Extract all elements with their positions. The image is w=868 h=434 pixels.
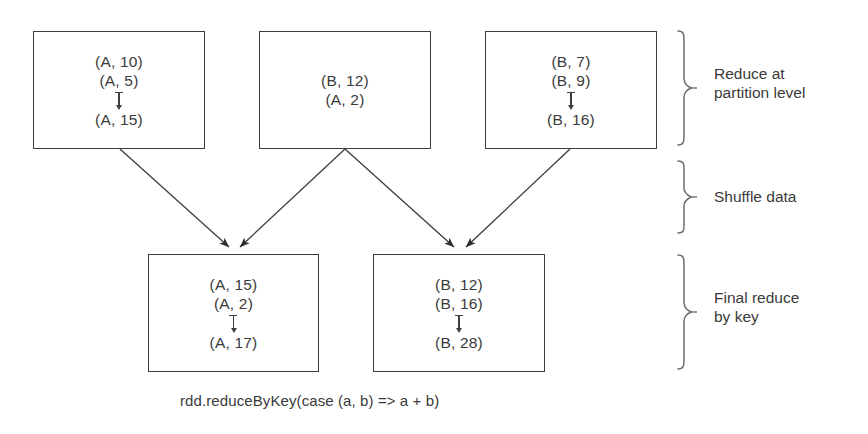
- final-reduce-box-b: (B, 12) (B, 16) (B, 28): [373, 254, 545, 372]
- down-arrow-icon: [458, 316, 459, 329]
- partition-1-line-1: (A, 10): [95, 52, 143, 71]
- diagram-caption: rdd.reduceByKey(case (a, b) => a + b): [180, 392, 439, 410]
- partition-3-line-1: (B, 7): [551, 52, 590, 71]
- edge-partition2-to-final-b: [345, 149, 454, 247]
- final-reduce-box-a: (A, 15) (A, 2) (A, 17): [148, 254, 319, 372]
- edge-partition1-to-final-a: [120, 149, 229, 247]
- curly-brace-icon: [672, 252, 698, 372]
- stage-label-shuffle-data: Shuffle data: [714, 187, 854, 206]
- partition-3-line-2: (B, 9): [551, 71, 590, 90]
- down-arrow-icon: [118, 93, 119, 106]
- partition-1-line-2: (A, 5): [99, 71, 138, 90]
- diagram-canvas: (A, 10) (A, 5) (A, 15) (B, 12) (A, 2) (B…: [0, 0, 868, 434]
- partition-box-1: (A, 10) (A, 5) (A, 15): [33, 31, 205, 149]
- brace-reduce-at-partition: [672, 28, 698, 148]
- final-b-result: (B, 28): [435, 333, 483, 352]
- partition-3-result: (B, 16): [547, 110, 595, 129]
- curly-brace-icon: [672, 28, 698, 148]
- partition-box-2: (B, 12) (A, 2): [259, 31, 431, 149]
- edge-partition2-to-final-a: [240, 149, 345, 247]
- partition-1-result: (A, 15): [95, 110, 143, 129]
- final-a-result: (A, 17): [210, 333, 258, 352]
- stage-label-final-reduce: Final reduce by key: [714, 288, 854, 326]
- curly-brace-icon: [672, 158, 698, 236]
- final-a-line-2: (A, 2): [214, 294, 253, 313]
- edge-partition3-to-final-b: [466, 149, 570, 247]
- stage-label-reduce-at-partition: Reduce at partition level: [714, 64, 854, 102]
- final-a-line-1: (A, 15): [210, 275, 258, 294]
- partition-2-line-2: (A, 2): [325, 90, 364, 109]
- partition-box-3: (B, 7) (B, 9) (B, 16): [485, 31, 657, 149]
- down-arrow-icon: [570, 93, 571, 106]
- partition-2-line-1: (B, 12): [321, 71, 369, 90]
- down-arrow-icon: [233, 316, 234, 329]
- final-b-line-2: (B, 16): [435, 294, 483, 313]
- final-b-line-1: (B, 12): [435, 275, 483, 294]
- brace-final-reduce: [672, 252, 698, 372]
- brace-shuffle-data: [672, 158, 698, 236]
